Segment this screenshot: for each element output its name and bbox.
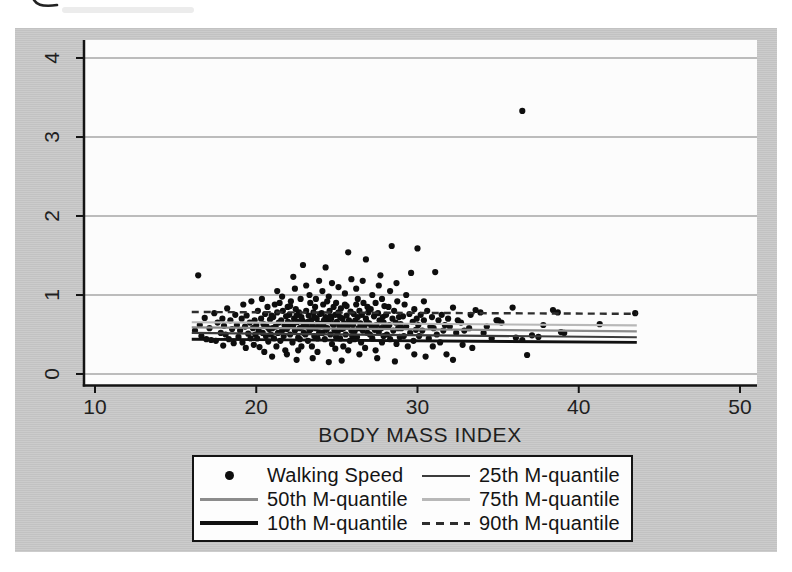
xtick-label-20: 20 [245,395,268,418]
quantile-25-line-symbol [422,475,470,478]
legend-label-50th: 50th M-quantile [267,488,413,511]
legend-label-75th: 75th M-quantile [479,488,625,511]
quantile-75-line-symbol [422,498,470,501]
ytick-label-0: 0 [40,368,63,380]
xtick-label-50: 50 [728,395,751,418]
legend-label-90th: 90th M-quantile [479,512,625,535]
ytick-label-1: 1 [40,289,63,301]
ytick-label-3: 3 [40,131,63,143]
x-axis-ticks: 1020304050 [83,386,751,418]
xtick-label-10: 10 [83,395,106,418]
legend-label-walking-speed: Walking Speed [267,464,413,487]
walking-speed-dot-symbol [225,471,234,480]
legend-label-10th: 10th M-quantile [267,512,413,535]
legend: Walking Speed 25th M-quantile 50th M-qua… [192,455,633,542]
legend-label-25th: 25th M-quantile [479,464,625,487]
ytick-label-4: 4 [40,52,63,64]
xtick-label-30: 30 [406,395,429,418]
scanned-chart-page: 012341020304050 BODY MASS INDEX Walking … [0,0,792,572]
xtick-label-40: 40 [567,395,590,418]
quantile-90-dashed-line-symbol [422,522,470,525]
quantile-10-line-symbol [200,521,258,525]
ytick-label-2: 2 [40,210,63,222]
quantile-50-line-symbol [200,498,258,501]
x-axis-title: BODY MASS INDEX [83,423,757,447]
